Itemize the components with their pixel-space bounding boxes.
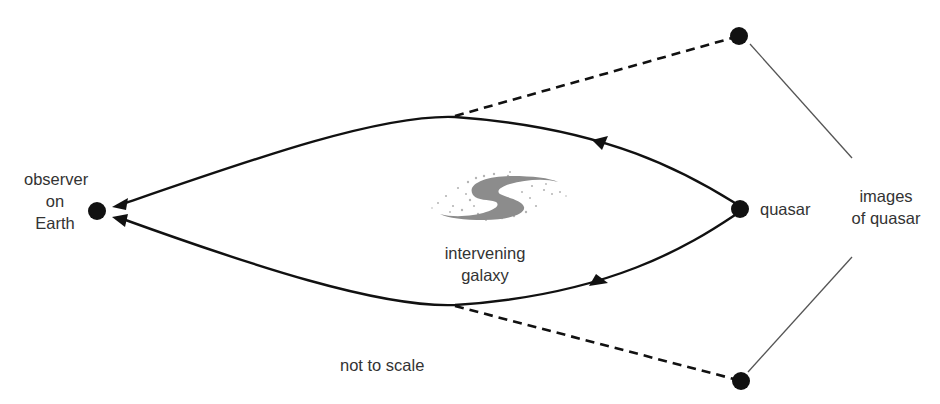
image-bottom-dot (732, 372, 750, 390)
images-label-line2: of quasar (838, 207, 934, 229)
observer-label-line2: on (24, 190, 86, 212)
galaxy-label: intervening galaxy (420, 242, 550, 286)
galaxy-label-line1: intervening (420, 242, 550, 264)
observer-label: observer on Earth (24, 168, 86, 234)
observer-label-line1: observer (24, 168, 86, 190)
galaxy-label-line2: galaxy (420, 264, 550, 286)
observer-dot (88, 202, 106, 220)
scale-note: not to scale (340, 354, 424, 376)
images-label-line1: images (838, 185, 934, 207)
arrow-mid-bottom-icon (589, 274, 608, 286)
galaxy-icon (431, 171, 567, 221)
images-label: images of quasar (838, 185, 934, 229)
leader-line-top (750, 44, 852, 158)
apparent-direction-top (455, 38, 732, 116)
image-top-dot (730, 27, 748, 45)
arrowhead-icon (112, 198, 128, 210)
light-path-top (112, 117, 735, 210)
leader-line-bottom (748, 257, 852, 372)
quasar-label: quasar (760, 198, 810, 220)
arrowhead-icon (112, 214, 128, 227)
quasar-dot (731, 200, 749, 218)
apparent-direction-bottom (455, 306, 734, 379)
observer-label-line3: Earth (24, 212, 86, 234)
